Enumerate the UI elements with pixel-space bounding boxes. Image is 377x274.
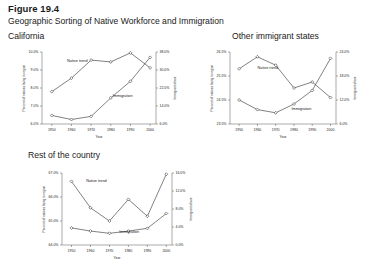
svg-text:10.0%: 10.0% <box>29 50 39 54</box>
svg-text:1950: 1950 <box>235 128 243 132</box>
svg-text:66.0%: 66.0% <box>49 195 59 199</box>
svg-text:Native trend: Native trend <box>86 179 106 183</box>
svg-text:Percent of natives living in r: Percent of natives living in region <box>22 64 26 111</box>
svg-text:Year: Year <box>114 256 122 260</box>
svg-text:2000: 2000 <box>146 128 154 132</box>
svg-text:Immigration: Immigration <box>119 230 139 234</box>
svg-text:1970: 1970 <box>106 249 114 253</box>
svg-text:12.0%: 12.0% <box>176 189 186 193</box>
svg-text:30.0%: 30.0% <box>160 68 170 72</box>
svg-text:24.5%: 24.5% <box>217 98 227 102</box>
svg-text:6.0%: 6.0% <box>340 122 348 126</box>
svg-text:1960: 1960 <box>68 128 76 132</box>
svg-text:Native trend: Native trend <box>258 66 278 70</box>
svg-text:Immigrant share: Immigrant share <box>173 76 177 99</box>
chart-california: 6.0%7.0%8.0%9.0%10.0%6.0%14.0%22.0%30.0%… <box>4 44 190 148</box>
svg-text:1990: 1990 <box>308 128 316 132</box>
svg-text:1970: 1970 <box>87 128 95 132</box>
chart-other-immigrant-states: 23.5%24.5%25.5%26.5%6.0%12.0%18.0%24.0%1… <box>196 44 374 148</box>
svg-text:0.0%: 0.0% <box>176 243 184 247</box>
svg-text:9.0%: 9.0% <box>31 68 39 72</box>
svg-text:26.5%: 26.5% <box>217 50 227 54</box>
svg-text:1980: 1980 <box>107 128 115 132</box>
svg-text:2000: 2000 <box>327 128 335 132</box>
svg-text:1960: 1960 <box>87 249 95 253</box>
svg-text:38.0%: 38.0% <box>160 50 170 54</box>
svg-text:1950: 1950 <box>48 128 56 132</box>
svg-text:14.0%: 14.0% <box>160 104 170 108</box>
svg-text:1990: 1990 <box>127 128 135 132</box>
svg-text:6.0%: 6.0% <box>31 122 39 126</box>
svg-text:1950: 1950 <box>68 249 76 253</box>
svg-text:1970: 1970 <box>272 128 280 132</box>
svg-text:18.0%: 18.0% <box>340 74 350 78</box>
svg-text:Immigrant share: Immigrant share <box>189 197 193 220</box>
figure-title: Geographic Sorting of Native Workforce a… <box>8 16 224 26</box>
svg-text:16.0%: 16.0% <box>176 171 186 175</box>
svg-text:7.0%: 7.0% <box>31 104 39 108</box>
svg-text:24.0%: 24.0% <box>340 50 350 54</box>
panel-title-other-states: Other immigrant states <box>232 31 319 41</box>
svg-text:1960: 1960 <box>254 128 262 132</box>
panel-title-california: California <box>8 31 44 41</box>
svg-text:1980: 1980 <box>290 128 298 132</box>
svg-text:Percent of natives living in r: Percent of natives living in region <box>42 185 46 232</box>
svg-text:67.0%: 67.0% <box>49 171 59 175</box>
chart-rest-of-country: 64.0%65.0%66.0%67.0%0.0%4.0%8.0%12.0%16.… <box>24 163 214 271</box>
svg-text:6.0%: 6.0% <box>160 122 168 126</box>
svg-text:8.0%: 8.0% <box>176 207 184 211</box>
svg-text:Immigrant share: Immigrant share <box>353 76 357 99</box>
svg-text:Native trend: Native trend <box>67 59 87 63</box>
svg-text:12.0%: 12.0% <box>340 98 350 102</box>
svg-text:4.0%: 4.0% <box>176 225 184 229</box>
svg-text:23.5%: 23.5% <box>217 122 227 126</box>
svg-text:64.0%: 64.0% <box>49 243 59 247</box>
svg-text:Year: Year <box>96 135 104 139</box>
svg-text:Immigration: Immigration <box>113 94 133 98</box>
svg-text:1990: 1990 <box>143 249 151 253</box>
svg-text:65.0%: 65.0% <box>49 219 59 223</box>
figure-number: Figure 19.4 <box>8 3 59 14</box>
svg-text:Percent of natives living in r: Percent of natives living in region <box>210 64 214 111</box>
svg-text:Immigration: Immigration <box>291 107 311 111</box>
svg-text:Year: Year <box>280 135 288 139</box>
svg-text:22.0%: 22.0% <box>160 86 170 90</box>
svg-text:25.5%: 25.5% <box>217 74 227 78</box>
panel-title-rest-country: Rest of the country <box>28 150 100 160</box>
svg-text:1980: 1980 <box>124 249 132 253</box>
svg-text:8.0%: 8.0% <box>31 86 39 90</box>
svg-text:2000: 2000 <box>162 249 170 253</box>
